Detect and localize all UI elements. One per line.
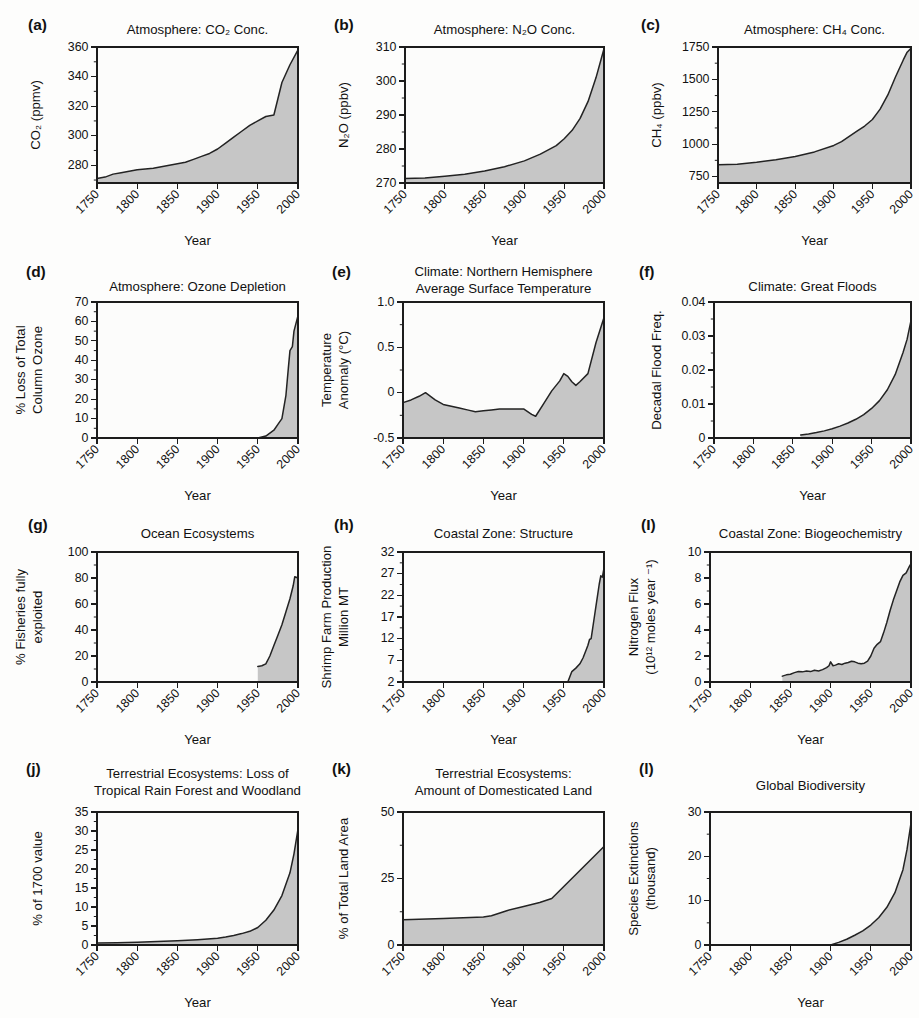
y-tick-label: 25 [381,871,395,885]
x-axis-label: Year [797,995,824,1010]
x-tick-label: 1950 [234,949,263,978]
y-tick-label: 0.01 [681,397,705,411]
y-axis-label: % Loss of Total [13,325,28,414]
x-tick-label: 1850 [461,187,490,216]
x-tick-label: 1900 [808,442,837,471]
x-axis-label: Year [184,233,211,248]
y-axis-label: Nitrogen Flux [626,577,641,656]
y-tick-label: 70 [75,295,89,309]
y-tick-label: 15 [75,881,89,895]
x-tick-label: 2000 [580,442,609,471]
y-tick-label: 27 [381,566,395,580]
panel-f: 00.010.020.030.0417501800185019001950200… [613,255,919,510]
x-tick-label: 2000 [274,442,303,471]
panel-e: -0.500.51.0175018001850190019502000(e)Cl… [306,255,612,510]
x-axis-label: Year [184,995,211,1010]
y-tick-label: 280 [68,158,89,172]
x-tick-label: 2000 [580,686,609,715]
y-tick-label: 2 [694,649,701,663]
y-tick-label: 750 [688,169,709,183]
y-axis-label: Shrimp Farm Production [320,546,335,689]
x-tick-label: 1950 [234,686,263,715]
x-tick-label: 1850 [153,949,182,978]
panel-title: Atmosphere: CH₄ Conc. [744,22,885,37]
panel-d: 010203040506070175018001850190019502000(… [0,255,306,510]
panel-title: Tropical Rain Forest and Woodland [94,783,301,798]
y-tick-label: 50 [75,334,89,348]
y-axis-label: exploited [30,591,45,644]
x-tick-label: 1850 [153,442,182,471]
panel-tag: (e) [332,263,351,280]
y-tick-label: 1.0 [378,295,395,309]
x-tick-label: 2000 [274,187,303,216]
x-tick-label: 2000 [580,949,609,978]
panel-title: Terrestrial Ecosystems: [436,766,572,781]
panel-tag: (k) [332,760,351,777]
x-tick-label: 1900 [500,187,529,216]
y-tick-label: 30 [687,805,701,819]
x-tick-label: 1750 [685,686,714,715]
y-axis-label: (thousand) [643,847,658,910]
y-tick-label: 2 [388,675,395,689]
x-tick-label: 1750 [73,442,102,471]
y-tick-label: 0 [388,385,395,399]
y-axis-label: N₂O (ppbv) [336,82,351,148]
y-tick-label: 0 [82,938,89,952]
x-axis-label: Year [490,488,517,503]
y-tick-label: 290 [376,108,397,122]
y-tick-label: 0.5 [378,340,395,354]
y-tick-label: 310 [376,40,397,54]
x-tick-label: 1750 [685,949,714,978]
y-tick-label: 17 [381,610,395,624]
x-tick-label: 1800 [729,442,758,471]
x-tick-label: 1800 [419,949,448,978]
panel-c: 7501000125015001750175018001850190019502… [613,0,919,255]
x-tick-label: 1850 [459,686,488,715]
x-tick-label: 1800 [113,686,142,715]
panel-tag: (I) [641,516,656,533]
y-tick-label: 20 [687,849,701,863]
y-axis-label: Species Extinctions [626,821,641,936]
panel-title: Climate: Northern Hemisphere [415,264,593,279]
x-tick-label: 1900 [500,686,529,715]
y-tick-label: 0.03 [681,329,705,343]
panel-title: Ocean Ecosystems [141,526,255,541]
x-tick-label: 2000 [886,442,915,471]
y-tick-label: 32 [381,545,395,559]
y-tick-label: 10 [687,545,701,559]
x-axis-label: Year [490,732,517,747]
y-tick-label: 7 [388,653,395,667]
x-tick-label: 1800 [421,187,450,216]
y-tick-label: 25 [75,843,89,857]
y-axis-label: % Fisheries fully [13,569,28,665]
y-axis-label: CH₄ (ppbv) [649,82,664,147]
x-tick-label: 1800 [726,949,755,978]
y-tick-label: 360 [68,40,89,54]
y-axis-label: (10¹² moles year ⁻¹) [643,559,658,674]
y-axis-label: Anomaly (°C) [337,331,352,410]
x-tick-label: 1850 [459,949,488,978]
panel-tag: (d) [26,263,46,280]
x-tick-label: 1850 [459,442,488,471]
panel-title: Amount of Domesticated Land [415,783,592,798]
x-tick-label: 1800 [726,686,755,715]
y-tick-label: 20 [75,649,89,663]
y-axis-label: Million MT [337,587,352,647]
x-tick-label: 1900 [500,442,529,471]
y-tick-label: 1000 [682,137,710,151]
panel-title: Atmosphere: N₂O Conc. [434,22,575,37]
y-tick-label: 10 [75,900,89,914]
x-tick-label: 1850 [153,686,182,715]
x-tick-label: 1950 [234,187,263,216]
x-axis-label: Year [184,488,211,503]
y-tick-label: 35 [75,805,89,819]
panel-k: 02550175018001850190019502000(k)Terrestr… [306,760,612,1018]
y-tick-label: 1500 [682,72,710,86]
y-tick-label: 0 [82,675,89,689]
x-tick-label: 1850 [766,686,795,715]
y-tick-label: 4 [694,623,701,637]
figure-grid: 280300320340360175018001850190019502000(… [0,0,919,1018]
x-tick-label: 2000 [886,949,915,978]
panel-a: 280300320340360175018001850190019502000(… [0,0,306,255]
panel-tag: (g) [28,516,48,533]
